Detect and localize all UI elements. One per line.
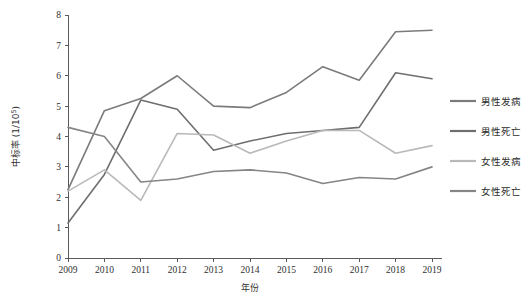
y-tick-label: 4 bbox=[56, 132, 61, 142]
legend: 男性发病男性死亡女性发病女性死亡 bbox=[450, 96, 521, 197]
y-tick-label: 0 bbox=[56, 253, 61, 263]
x-tick-label: 2018 bbox=[386, 265, 405, 275]
legend-label-男性发病[interactable]: 男性发病 bbox=[481, 96, 521, 107]
series-lines bbox=[68, 30, 432, 223]
x-tick-label: 2019 bbox=[423, 265, 442, 275]
x-tick-label: 2015 bbox=[277, 265, 296, 275]
y-tick-label: 5 bbox=[56, 102, 61, 112]
y-tick-label: 8 bbox=[56, 10, 61, 20]
x-tick-label: 2013 bbox=[204, 265, 223, 275]
y-tick-label: 1 bbox=[56, 223, 61, 233]
y-tick-label: 2 bbox=[56, 193, 61, 203]
chart-canvas: 2009201020112012201320142015201620172018… bbox=[0, 0, 531, 306]
x-axis-ticks: 2009201020112012201320142015201620172018… bbox=[59, 258, 442, 275]
x-tick-label: 2016 bbox=[313, 265, 332, 275]
line-chart: 2009201020112012201320142015201620172018… bbox=[0, 0, 531, 306]
x-tick-label: 2014 bbox=[241, 265, 260, 275]
y-axis-title: 中标率 (1/105) bbox=[10, 106, 21, 167]
y-axis-title-close: ) bbox=[11, 106, 21, 110]
x-tick-label: 2012 bbox=[168, 265, 187, 275]
x-tick-label: 2017 bbox=[350, 265, 369, 275]
x-axis-title: 年份 bbox=[241, 282, 259, 293]
legend-label-男性死亡[interactable]: 男性死亡 bbox=[481, 126, 521, 137]
y-axis-title-main: 中标率 (1/10 bbox=[10, 113, 21, 167]
y-axis-ticks: 012345678 bbox=[56, 10, 68, 263]
legend-label-女性发病[interactable]: 女性发病 bbox=[481, 156, 521, 167]
series-line-男性死亡 bbox=[68, 73, 432, 223]
y-tick-label: 7 bbox=[56, 41, 61, 51]
x-tick-label: 2011 bbox=[131, 265, 150, 275]
x-tick-label: 2010 bbox=[95, 265, 114, 275]
series-line-男性发病 bbox=[68, 30, 432, 189]
y-tick-label: 3 bbox=[56, 162, 61, 172]
y-axis-title-label: 中标率 (1/105) bbox=[10, 106, 21, 167]
y-tick-label: 6 bbox=[56, 71, 61, 81]
x-tick-label: 2009 bbox=[59, 265, 78, 275]
legend-label-女性死亡[interactable]: 女性死亡 bbox=[481, 186, 521, 197]
axes bbox=[68, 15, 442, 258]
